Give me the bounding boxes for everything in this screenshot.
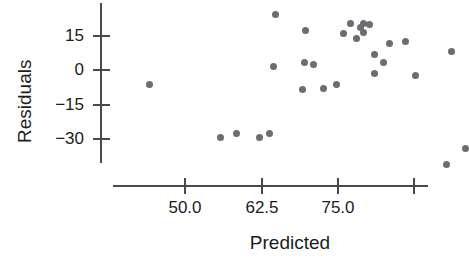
data-point bbox=[371, 51, 378, 58]
data-point bbox=[462, 145, 469, 152]
data-point bbox=[333, 81, 340, 88]
data-point bbox=[353, 35, 360, 42]
data-point bbox=[340, 30, 347, 37]
y-axis-title: Residuals bbox=[14, 60, 36, 143]
data-point bbox=[272, 11, 279, 18]
data-point bbox=[347, 20, 354, 27]
data-point bbox=[270, 63, 277, 70]
data-point bbox=[302, 27, 309, 34]
data-point bbox=[371, 70, 378, 77]
data-point bbox=[360, 29, 367, 36]
data-point bbox=[320, 85, 327, 92]
data-point bbox=[443, 161, 450, 168]
data-point bbox=[380, 59, 387, 66]
x-axis-tick-label-50: 50.0 bbox=[145, 198, 225, 218]
data-point bbox=[402, 38, 409, 45]
data-point bbox=[386, 40, 393, 47]
data-point bbox=[146, 81, 153, 88]
x-axis-line bbox=[113, 185, 428, 187]
data-point bbox=[217, 134, 224, 141]
data-point bbox=[256, 134, 263, 141]
x-axis-tick bbox=[184, 178, 186, 194]
data-point bbox=[448, 48, 455, 55]
data-point bbox=[266, 130, 273, 137]
y-axis-tick bbox=[93, 138, 110, 140]
data-point bbox=[310, 61, 317, 68]
y-axis-tick bbox=[93, 69, 110, 71]
data-point bbox=[366, 21, 373, 28]
x-axis-tick bbox=[413, 178, 415, 194]
y-axis-tick bbox=[93, 35, 110, 37]
x-axis-title: Predicted bbox=[230, 232, 350, 254]
y-axis-tick bbox=[93, 104, 110, 106]
x-axis-tick bbox=[337, 178, 339, 194]
x-axis-tick bbox=[261, 178, 263, 194]
y-axis-tick-label-0: 0 bbox=[28, 60, 84, 80]
y-axis-tick-label-15: 15 bbox=[28, 26, 84, 46]
x-axis-tick-label-62: 62.5 bbox=[222, 198, 302, 218]
data-point bbox=[301, 59, 308, 66]
x-axis-tick-label-75: 75.0 bbox=[298, 198, 378, 218]
data-point bbox=[299, 86, 306, 93]
data-point bbox=[233, 130, 240, 137]
data-point bbox=[412, 72, 419, 79]
data-point bbox=[360, 20, 367, 27]
